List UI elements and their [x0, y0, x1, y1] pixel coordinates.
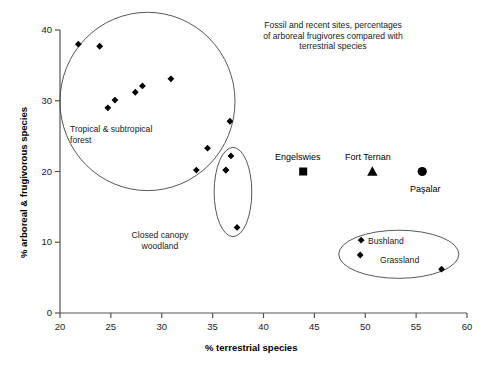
- y-tick-label-20: 20: [26, 166, 52, 177]
- y-tick-label-30: 30: [26, 95, 52, 106]
- x-tick-label-35: 35: [199, 321, 227, 332]
- x-tick-label-40: 40: [250, 321, 278, 332]
- x-axis-title: % terrestrial species: [205, 342, 297, 353]
- annotation-closed-canopy-woodland: Closed canopy woodland: [112, 230, 208, 251]
- plot-canvas: [0, 0, 488, 365]
- data-point-bushland-and-grassland-2[interactable]: [438, 266, 445, 273]
- data-point-fort-ternan-0[interactable]: [367, 166, 377, 175]
- closed-canopy-ellipse: [214, 147, 252, 236]
- data-point-tropical-subtropical-forest-4[interactable]: [132, 89, 139, 96]
- annotation-grassland: Grassland: [380, 255, 419, 266]
- annotation-tropical-forest: Tropical & subtropical forest: [70, 124, 152, 145]
- x-tick-label-50: 50: [351, 321, 379, 332]
- data-point-tropical-subtropical-forest-8[interactable]: [204, 145, 211, 152]
- x-tick-label-25: 25: [97, 321, 125, 332]
- data-point-tropical-subtropical-forest-5[interactable]: [139, 82, 146, 89]
- annotation-closed-canopy-line-2: woodland: [112, 241, 208, 252]
- x-tick-label-30: 30: [148, 321, 176, 332]
- data-point-closed-canopy-woodland-2[interactable]: [234, 224, 241, 231]
- annotation-tropical-forest-line-2: forest: [70, 135, 152, 146]
- x-tick-label-20: 20: [46, 321, 74, 332]
- label-engelswies: Engelswies: [275, 152, 321, 162]
- label-pasalar: Paşalar: [410, 184, 441, 194]
- label-fort-ternan: Fort Ternan: [345, 152, 391, 162]
- y-tick-label-0: 0: [26, 307, 52, 318]
- data-point-tropical-subtropical-forest-1[interactable]: [96, 43, 103, 50]
- x-tick-label-45: 45: [300, 321, 328, 332]
- data-point-tropical-subtropical-forest-6[interactable]: [168, 75, 175, 82]
- annotation-bushland: Bushland: [368, 236, 404, 247]
- data-point-tropical-subtropical-forest-3[interactable]: [112, 97, 119, 104]
- data-point-tropical-subtropical-forest-0[interactable]: [75, 41, 82, 48]
- data-point-tropical-subtropical-forest-2[interactable]: [104, 104, 111, 111]
- data-point-bushland-and-grassland-0[interactable]: [358, 237, 365, 244]
- data-point-bushland-and-grassland-1[interactable]: [357, 252, 364, 259]
- data-point-closed-canopy-woodland-1[interactable]: [222, 167, 229, 174]
- y-tick-label-10: 10: [26, 236, 52, 247]
- annotation-tropical-forest-line-1: Tropical & subtropical: [70, 124, 152, 135]
- chart-title-line-1: Fossil and recent sites, percentages: [228, 20, 438, 31]
- x-tick-label-60: 60: [453, 321, 481, 332]
- scatter-chart-figure: Fossil and recent sites, percentages of …: [0, 0, 488, 365]
- x-tick-label-55: 55: [402, 321, 430, 332]
- y-tick-label-40: 40: [26, 24, 52, 35]
- chart-title-line-2: of arboreal frugivores compared with: [228, 31, 438, 42]
- data-point-closed-canopy-woodland-0[interactable]: [228, 153, 235, 160]
- chart-title: Fossil and recent sites, percentages of …: [228, 20, 438, 52]
- tropical-forest-circle: [60, 12, 235, 190]
- data-point-pa-alar-0[interactable]: [418, 167, 427, 176]
- data-point-engelswies-0[interactable]: [299, 168, 307, 176]
- chart-title-line-3: terrestrial species: [228, 41, 438, 52]
- data-point-tropical-subtropical-forest-9[interactable]: [193, 167, 200, 174]
- annotation-closed-canopy-line-1: Closed canopy: [112, 230, 208, 241]
